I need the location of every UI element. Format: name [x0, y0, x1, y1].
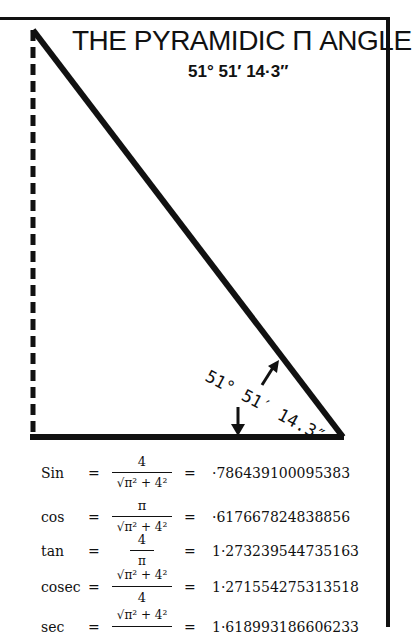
function-name: Sin	[41, 465, 64, 481]
triangle-hypotenuse	[33, 30, 343, 437]
angle-arrow-down-icon	[231, 407, 245, 436]
value: ·617667824838856	[212, 509, 350, 525]
equals-sign: =	[88, 579, 100, 595]
fraction-bar	[112, 472, 172, 473]
fraction: √π² + 4² 4	[112, 567, 172, 606]
formula-row-sin: Sin = 4 √π² + 4² = ·786439100095383	[0, 453, 386, 497]
equals-sign: =	[88, 509, 100, 525]
function-name: tan	[41, 543, 64, 559]
formula-row-cosec: cosec = √π² + 4² 4 = 1·271554275313518	[0, 567, 386, 611]
value: 1·273239544735163	[212, 543, 359, 559]
equals-sign: =	[184, 465, 196, 481]
function-name: sec	[41, 619, 64, 635]
angle-subtitle: 51° 51′ 14·3″	[188, 62, 288, 82]
fraction-bar	[130, 550, 154, 551]
numerator: √π² + 4²	[112, 607, 172, 624]
function-name: cos	[41, 509, 64, 525]
numerator: 4	[112, 531, 172, 548]
fraction-bar	[112, 586, 172, 587]
equals-sign: =	[184, 619, 196, 635]
fraction: 4 π	[112, 531, 172, 570]
angle-arrow-up-icon	[262, 360, 279, 385]
page-title: THE PYRAMIDIC Π ANGLE	[72, 25, 412, 57]
value: 1·618993186606233	[212, 619, 359, 635]
fraction-bar	[112, 516, 172, 517]
denominator: 4	[112, 589, 172, 606]
fraction-bar	[112, 626, 172, 627]
denominator: √π² + 4²	[112, 475, 172, 492]
numerator: √π² + 4²	[112, 567, 172, 584]
denominator	[112, 629, 172, 636]
numerator: π	[112, 497, 172, 514]
equals-sign: =	[88, 543, 100, 559]
fraction: 4 √π² + 4²	[112, 453, 172, 492]
fraction: √π² + 4²	[112, 607, 172, 636]
function-name: cosec	[41, 579, 81, 595]
equals-sign: =	[184, 579, 196, 595]
equals-sign: =	[184, 543, 196, 559]
value: 1·271554275313518	[212, 579, 359, 595]
value: ·786439100095383	[212, 465, 350, 481]
numerator: 4	[112, 453, 172, 470]
equals-sign: =	[88, 619, 100, 635]
equals-sign: =	[88, 465, 100, 481]
formula-row-sec: sec = √π² + 4² = 1·618993186606233	[0, 607, 386, 636]
equals-sign: =	[184, 509, 196, 525]
